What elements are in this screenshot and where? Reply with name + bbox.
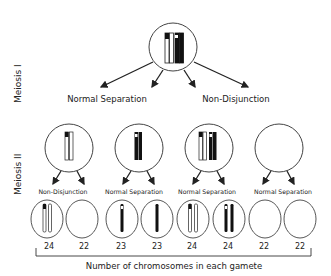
gamete-count-5: 24 [187, 242, 197, 251]
gamete-5 [177, 200, 209, 238]
chromosome-dark-icon [175, 33, 184, 63]
meiosis-1-daughter-cell-2 [115, 124, 163, 172]
gamete-7 [249, 200, 281, 238]
meiosis-2-label-2: Normal Separation [105, 188, 163, 196]
gamete-bracket [36, 248, 311, 256]
gamete-axis-label: Number of chromosomes in each gamete [86, 261, 262, 271]
meiosis-1-nondisjunction-label: Non-Disjunction [202, 94, 269, 104]
gamete-4 [141, 200, 173, 238]
gamete-count-3: 23 [116, 242, 126, 251]
meiosis-1-daughter-cell-4-empty [255, 124, 303, 172]
gamete-count-7: 22 [259, 242, 269, 251]
meiosis-2-label-4: Normal Separation [254, 188, 312, 196]
meiosis-1-normal-label: Normal Separation [67, 94, 147, 104]
meiosis-2-label-1: Non-Disjunction [38, 188, 87, 196]
gamete-3 [106, 200, 138, 238]
gamete-count-1: 24 [44, 242, 54, 251]
gamete-8 [284, 200, 316, 238]
chromosome-light-icon [165, 33, 174, 63]
gamete-6 [213, 200, 245, 238]
meiosis-2-label-3: Normal Separation [178, 188, 236, 196]
meiosis-2-arrows [53, 171, 294, 184]
parent-cell [149, 23, 197, 71]
gamete-count-4: 23 [152, 242, 162, 251]
nondisjunction-diagram: Meiosis I Meiosis II Normal Separation N… [0, 0, 331, 276]
meiosis-2-label: Meiosis II [13, 154, 23, 195]
gamete-count-6: 24 [223, 242, 233, 251]
gamete-1 [31, 200, 63, 238]
meiosis-1-daughter-cell-3 [185, 124, 233, 172]
meiosis-1-daughter-cell-1 [45, 124, 93, 172]
gamete-count-8: 22 [295, 242, 305, 251]
gamete-count-2: 22 [79, 242, 89, 251]
gamete-2 [66, 200, 98, 238]
meiosis-1-label: Meiosis I [13, 64, 23, 103]
